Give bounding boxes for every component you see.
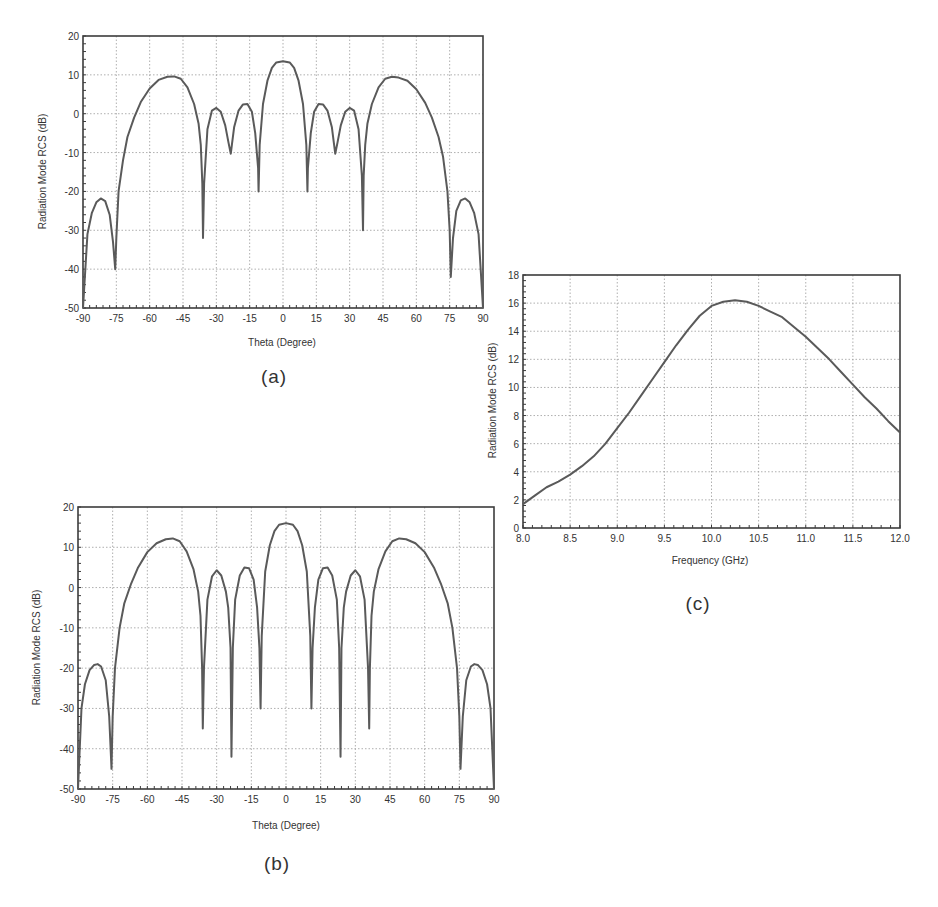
svg-text:16: 16 <box>508 298 520 309</box>
chart-c-caption: (c) <box>685 593 710 615</box>
chart-c-x-axis-label: Frequency (GHz) <box>672 555 749 566</box>
svg-text:11.0: 11.0 <box>796 533 815 544</box>
svg-text:10: 10 <box>508 382 520 393</box>
svg-text:12.0: 12.0 <box>890 533 910 544</box>
svg-text:18: 18 <box>508 270 520 281</box>
svg-text:6: 6 <box>513 439 519 450</box>
svg-text:14: 14 <box>508 326 520 337</box>
svg-text:11.5: 11.5 <box>844 533 863 544</box>
svg-text:2: 2 <box>513 495 519 506</box>
svg-text:12: 12 <box>508 354 520 365</box>
chart-c-y-axis-label: Radiation Mode RCS (dB) <box>487 341 498 461</box>
svg-text:0: 0 <box>513 523 519 534</box>
svg-text:9.5: 9.5 <box>657 533 671 544</box>
grid-lines <box>523 275 900 528</box>
chart-c-plot: 8.08.59.09.510.010.511.011.512.002468101… <box>0 0 938 907</box>
chart-panel-c: 8.08.59.09.510.010.511.011.512.002468101… <box>0 0 938 907</box>
svg-text:10.0: 10.0 <box>702 533 722 544</box>
svg-text:8.0: 8.0 <box>516 533 530 544</box>
svg-text:8.5: 8.5 <box>563 533 577 544</box>
svg-text:8: 8 <box>513 411 519 422</box>
svg-text:9.0: 9.0 <box>610 533 624 544</box>
tick-labels: 8.08.59.09.510.010.511.011.512.002468101… <box>508 270 910 544</box>
svg-text:4: 4 <box>513 467 519 478</box>
svg-text:10.5: 10.5 <box>749 533 769 544</box>
